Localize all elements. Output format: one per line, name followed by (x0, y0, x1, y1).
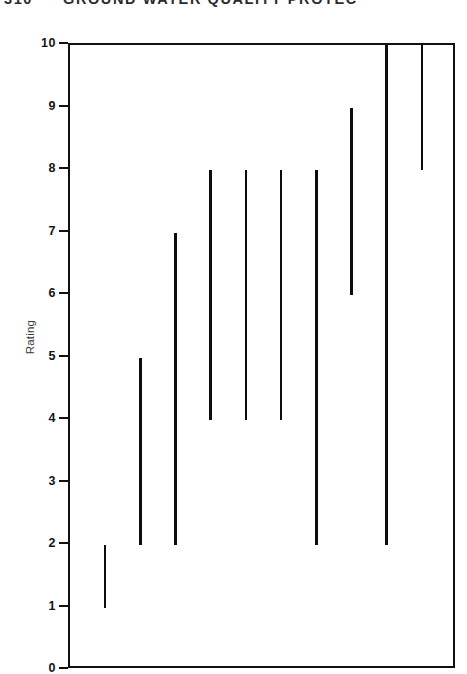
y-tick-mark (59, 42, 68, 44)
y-tick-label-wrap: 7 (20, 224, 56, 238)
y-tick-label: 4 (28, 411, 56, 425)
y-tick-label-wrap: 1 (20, 599, 56, 613)
range-bar (209, 170, 212, 420)
y-tick-label-wrap: 5 (20, 349, 56, 363)
y-tick-label: 1 (28, 599, 56, 613)
y-tick-label-wrap: 8 (20, 161, 56, 175)
y-tick-mark (59, 542, 68, 544)
y-tick-label: 5 (28, 349, 56, 363)
range-bar-chart: Rating 012345678910 (0, 0, 467, 674)
y-tick-mark (59, 355, 68, 357)
y-tick-label-wrap: 3 (20, 474, 56, 488)
y-tick-label-wrap: 10 (20, 36, 56, 50)
y-tick-label-wrap: 6 (20, 286, 56, 300)
y-tick-label: 9 (28, 99, 56, 113)
y-tick-label: 6 (28, 286, 56, 300)
y-tick-mark (59, 667, 68, 669)
range-bar (315, 170, 318, 545)
y-tick-label-wrap: 4 (20, 411, 56, 425)
plot-area (68, 43, 455, 668)
y-tick-mark (59, 230, 68, 232)
range-bar (104, 545, 107, 608)
y-tick-mark (59, 167, 68, 169)
y-tick-label: 7 (28, 224, 56, 238)
y-tick-label: 8 (28, 161, 56, 175)
y-tick-label: 0 (28, 661, 56, 674)
y-tick-label-wrap: 0 (20, 661, 56, 674)
range-bar (350, 108, 353, 296)
range-bar (421, 45, 424, 170)
y-tick-label: 2 (28, 536, 56, 550)
range-bar (280, 170, 283, 420)
range-bar (174, 233, 177, 546)
y-tick-label: 3 (28, 474, 56, 488)
y-tick-mark (59, 417, 68, 419)
y-tick-mark (59, 480, 68, 482)
y-tick-mark (59, 605, 68, 607)
range-bar (385, 45, 388, 545)
y-tick-mark (59, 105, 68, 107)
y-tick-label: 10 (28, 36, 56, 50)
y-tick-label-wrap: 9 (20, 99, 56, 113)
y-tick-mark (59, 292, 68, 294)
range-bar (245, 170, 248, 420)
y-tick-label-wrap: 2 (20, 536, 56, 550)
range-bar (139, 358, 142, 546)
